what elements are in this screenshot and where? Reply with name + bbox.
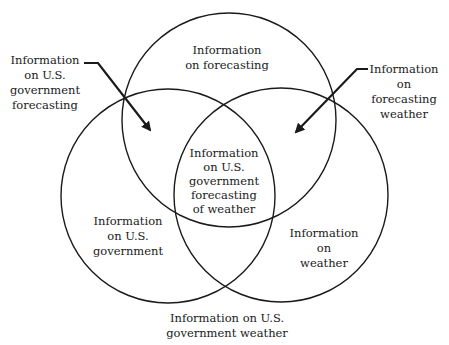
label-line: Information: [369, 62, 438, 77]
label-line: Information: [185, 43, 269, 58]
label-line: government: [189, 174, 259, 188]
label-line: government: [10, 83, 80, 98]
arrow-government-forecasting: [84, 63, 150, 130]
label-line: forecasting: [189, 188, 259, 202]
label-line: weather: [289, 256, 358, 271]
label-line: on U.S.: [10, 68, 80, 83]
label-forecasting-weather: Information on forecasting weather: [369, 62, 438, 122]
label-government-forecasting: Information on U.S. government forecasti…: [10, 53, 80, 113]
label-line: Information: [289, 226, 358, 241]
label-line: Information: [189, 146, 259, 160]
label-all-three: Information on U.S. government forecasti…: [189, 146, 259, 216]
label-line: Information on U.S.: [166, 311, 288, 326]
label-line: government: [93, 244, 163, 259]
label-weather: Information on weather: [289, 226, 358, 271]
label-line: forecasting: [10, 98, 80, 113]
label-line: government weather: [166, 326, 288, 341]
label-line: on forecasting: [185, 58, 269, 73]
label-government: Information on U.S. government: [93, 214, 163, 259]
label-line: Information: [10, 53, 80, 68]
label-line: on: [369, 77, 438, 92]
label-government-weather: Information on U.S. government weather: [166, 311, 288, 341]
label-line: forecasting: [369, 92, 438, 107]
label-line: on: [289, 241, 358, 256]
label-forecasting: Information on forecasting: [185, 43, 269, 73]
label-line: on U.S.: [189, 160, 259, 174]
label-line: of weather: [189, 202, 259, 216]
label-line: on U.S.: [93, 229, 163, 244]
label-line: weather: [369, 107, 438, 122]
label-line: Information: [93, 214, 163, 229]
